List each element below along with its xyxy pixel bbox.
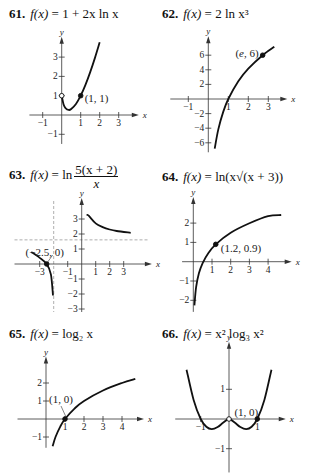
x-tick-label: 4 bbox=[266, 265, 271, 275]
x-tick-label: 3 bbox=[101, 422, 106, 432]
x-tick-label: 2 bbox=[246, 102, 251, 112]
x-axis-label: x bbox=[147, 414, 152, 424]
graph-65: xy1234−112(1, 0) bbox=[18, 347, 153, 448]
y-tick-label: −1 bbox=[32, 432, 42, 442]
y-tick-label: 1 bbox=[73, 244, 78, 254]
function-curve bbox=[53, 379, 136, 446]
y-tick-label: −6 bbox=[194, 138, 204, 148]
x-tick-label: 4 bbox=[120, 422, 125, 432]
x-axis-label: x bbox=[142, 110, 147, 120]
x-tick-label: 2 bbox=[107, 267, 112, 277]
x-tick-label: 1 bbox=[78, 118, 83, 128]
x-tick-label: 3 bbox=[116, 118, 121, 128]
y-axis-arrow-icon bbox=[206, 36, 210, 43]
x-tick-label: 3 bbox=[121, 267, 126, 277]
y-axis-arrow-icon bbox=[191, 197, 195, 204]
point-label: (1, 0) bbox=[49, 393, 73, 406]
x-tick-label: 1 bbox=[93, 267, 98, 277]
y-axis-arrow-icon bbox=[60, 37, 64, 44]
point-label: (e, 6) bbox=[235, 47, 259, 60]
x-tick-label: −1 bbox=[183, 102, 193, 112]
marked-point bbox=[260, 53, 265, 58]
y-axis-label: y bbox=[43, 347, 48, 357]
y-axis-arrow-icon bbox=[44, 357, 48, 364]
x-tick-label: −1 bbox=[38, 118, 48, 128]
y-axis-label: y bbox=[79, 188, 84, 198]
x-axis-arrow-icon bbox=[132, 113, 139, 117]
marked-point bbox=[213, 242, 218, 247]
y-tick-label: 4 bbox=[200, 65, 205, 75]
graph-61: xy−1123−1123(1, 1) bbox=[29, 27, 146, 144]
x-tick-label: −3 bbox=[35, 267, 45, 277]
marked-point bbox=[44, 262, 49, 267]
marked-point bbox=[78, 93, 83, 98]
x-axis-arrow-icon bbox=[285, 260, 292, 264]
y-tick-label: 1 bbox=[220, 384, 225, 394]
x-axis-arrow-icon bbox=[137, 417, 144, 421]
point-label: (1, 0) bbox=[234, 406, 258, 419]
open-point bbox=[59, 93, 64, 98]
open-point bbox=[227, 417, 232, 422]
x-tick-label: 2 bbox=[82, 422, 87, 432]
y-axis-label: y bbox=[205, 26, 210, 36]
y-tick-label: 1 bbox=[185, 237, 190, 247]
y-tick-label: 2 bbox=[200, 79, 205, 89]
graph-62: xy−1123−6−4−2246(e, 6) bbox=[170, 26, 295, 152]
y-tick-label: 2 bbox=[37, 378, 42, 388]
y-axis-label: y bbox=[190, 187, 195, 197]
function-curve bbox=[215, 47, 275, 149]
y-tick-label: −4 bbox=[194, 123, 204, 133]
y-tick-label: 3 bbox=[73, 214, 78, 224]
x-axis-label: x bbox=[155, 259, 160, 269]
y-tick-label: 2 bbox=[53, 71, 58, 81]
x-tick-label: 1 bbox=[210, 265, 215, 275]
graph-64: xy1234−2−112(1.2, 0.9) bbox=[179, 187, 299, 312]
x-tick-label: 2 bbox=[228, 265, 233, 275]
point-label: (1, 1) bbox=[85, 92, 109, 105]
x-tick-label: 2 bbox=[97, 118, 102, 128]
y-tick-label: −1 bbox=[68, 274, 78, 284]
point-label: (−2.5, 0) bbox=[26, 246, 65, 259]
y-tick-label: −2 bbox=[194, 109, 204, 119]
marked-point bbox=[63, 417, 68, 422]
x-tick-label: 3 bbox=[266, 102, 271, 112]
y-tick-label: 2 bbox=[73, 229, 78, 239]
y-tick-label: −1 bbox=[179, 276, 189, 286]
y-tick-label: 6 bbox=[200, 50, 205, 60]
graphs-canvas: xy−1123−1123(1, 1)xy−1123−6−4−2246(e, 6)… bbox=[0, 0, 312, 476]
x-tick-label: 1 bbox=[63, 422, 68, 432]
y-tick-label: 3 bbox=[53, 52, 58, 62]
graph-63: xy−3−1123−3−2−1123(−2.5, 0) bbox=[15, 188, 160, 314]
y-tick-label: −2 bbox=[68, 289, 78, 299]
y-tick-label: −3 bbox=[68, 304, 78, 314]
x-axis-arrow-icon bbox=[280, 97, 287, 101]
y-tick-label: −2 bbox=[179, 295, 189, 305]
y-axis-label: y bbox=[59, 27, 64, 37]
function-curve bbox=[87, 215, 131, 233]
y-axis-label: y bbox=[226, 332, 231, 342]
leader-line bbox=[61, 406, 66, 417]
y-tick-label: 1 bbox=[37, 396, 42, 406]
x-axis-arrow-icon bbox=[145, 262, 152, 266]
y-tick-label: 2 bbox=[185, 218, 190, 228]
x-axis-label: x bbox=[295, 257, 300, 267]
x-axis-label: x bbox=[289, 414, 294, 424]
y-axis-arrow-icon bbox=[227, 342, 231, 349]
y-tick-label: 1 bbox=[53, 91, 58, 101]
x-axis-arrow-icon bbox=[279, 417, 286, 421]
graph-66: xy−11−11(1, 0) bbox=[175, 332, 294, 473]
y-axis-arrow-icon bbox=[80, 198, 84, 205]
x-axis-label: x bbox=[290, 94, 295, 104]
y-tick-label: −1 bbox=[215, 444, 225, 454]
y-tick-label: −1 bbox=[48, 129, 58, 139]
point-label: (1.2, 0.9) bbox=[221, 242, 262, 255]
x-tick-label: 3 bbox=[247, 265, 252, 275]
